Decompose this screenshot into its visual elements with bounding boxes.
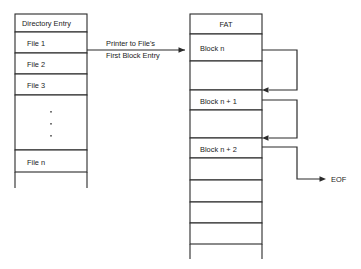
directory-entry-table: Directory Entry File 1 File 2 File 3 Fil…: [15, 14, 87, 188]
chain-connector-block-n-to-n1: [262, 50, 297, 93]
fat-row-label: Block n: [200, 44, 224, 53]
fat-row-cell: [190, 61, 262, 90]
fat-row-cell: [190, 223, 262, 244]
directory-table-open-tail: [15, 172, 87, 188]
diagram-canvas: Directory Entry File 1 File 2 File 3 Fil…: [0, 0, 361, 269]
chain-connector-path: [262, 100, 297, 138]
chain-arrowhead-icon: [262, 87, 269, 93]
eof-connector-path: [262, 147, 320, 179]
fat-header-label: FAT: [219, 20, 232, 29]
pointer-label-line2: First Block Entry: [106, 51, 160, 60]
fat-diagram: Directory Entry File 1 File 2 File 3 Fil…: [0, 0, 361, 269]
chain-arrowhead-icon: [262, 135, 269, 141]
directory-row-label: File n: [27, 158, 45, 167]
fat-table: FAT Block n Block n + 1 Block n + 2: [190, 14, 262, 259]
eof-label: EOF: [331, 175, 347, 184]
pointer-annotation: Printer to File's First Block Entry: [87, 39, 185, 60]
directory-row-cell: [15, 150, 87, 172]
fat-row-cell: [190, 110, 262, 138]
fat-row-label: Block n + 1: [200, 97, 237, 106]
fat-row-label: Block n + 2: [200, 145, 237, 154]
fat-row-cell: [190, 158, 262, 180]
eof-arrowhead-icon: [320, 176, 327, 182]
directory-header-label: Directory Entry: [22, 19, 71, 28]
chain-connector-block-n1-to-n2: [262, 100, 297, 141]
directory-row-cell: [15, 95, 87, 150]
pointer-label-line1: Printer to File's: [106, 39, 155, 48]
pointer-arrowhead-icon: [179, 47, 186, 53]
directory-row-cell: [15, 32, 87, 53]
chain-connector-block-n2-to-eof: EOF: [262, 147, 347, 184]
directory-row-cell: [15, 74, 87, 95]
fat-row-cell: [190, 180, 262, 202]
directory-row-label: File 3: [27, 81, 45, 90]
chain-connector-path: [262, 50, 297, 90]
fat-row-cell: [190, 202, 262, 223]
directory-row-label: File 2: [27, 60, 45, 69]
directory-row-label: File 1: [27, 39, 45, 48]
directory-row-cell: [15, 53, 87, 74]
fat-table-open-tail: [190, 244, 262, 259]
